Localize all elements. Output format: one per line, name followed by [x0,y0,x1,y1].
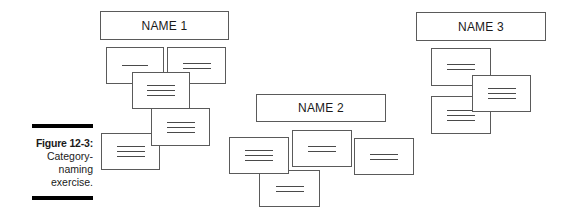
figure-label: Figure 12-3: [32,137,93,150]
text-line-placeholder [447,110,475,111]
text-line-placeholder [147,90,175,91]
text-line-placeholder [488,93,516,94]
text-line-placeholder [147,85,175,86]
text-line-placeholder [370,159,398,160]
figure-caption: Figure 12-3: Category- naming exercise. [32,124,93,200]
text-line-placeholder [447,69,475,70]
text-line-placeholder [245,150,273,151]
text-line-placeholder [370,154,398,155]
note-card [132,72,190,109]
category-name-box-2: NAME 2 [256,94,386,122]
text-line-placeholder [245,155,273,156]
caption-line-2: naming [32,163,93,176]
note-card [292,130,352,167]
text-line-placeholder [447,120,475,121]
caption-top-bar [32,124,93,128]
text-line-placeholder [122,65,148,66]
note-card [151,108,210,146]
text-line-placeholder [276,191,304,192]
text-line-placeholder [117,146,145,147]
text-line-placeholder [308,146,336,147]
caption-line-3: exercise. [32,176,93,189]
text-line-placeholder [308,151,336,152]
text-line-placeholder [183,68,211,69]
text-line-placeholder [167,122,195,123]
note-card [354,138,414,175]
text-line-placeholder [167,127,195,128]
caption-line-1: Category- [32,150,93,163]
text-line-placeholder [117,156,145,157]
text-line-placeholder [488,98,516,99]
category-name-box-3: NAME 3 [416,12,546,41]
note-card [259,170,320,207]
text-line-placeholder [447,64,475,65]
text-line-placeholder [147,95,175,96]
text-line-placeholder [117,151,145,152]
category-name-box-1: NAME 1 [100,11,229,40]
text-line-placeholder [447,115,475,116]
text-line-placeholder [245,160,273,161]
caption-bottom-bar [32,196,93,200]
note-card [229,137,289,174]
text-line-placeholder [276,186,304,187]
text-line-placeholder [167,132,195,133]
text-line-placeholder [488,88,516,89]
text-line-placeholder [183,63,211,64]
note-card [472,75,531,112]
